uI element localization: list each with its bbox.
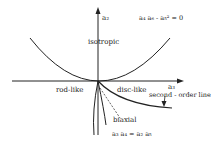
- vertical-axis-label: a₂: [102, 15, 109, 22]
- biaxial-left-curve: [94, 81, 99, 135]
- second-order-pointer-arrow-icon: [162, 101, 167, 107]
- horizontal-axis-arrow-icon: [177, 79, 184, 84]
- horizontal-axis-label: a₃: [168, 84, 175, 91]
- disc-like-region-label: disc-like: [117, 87, 146, 94]
- vertical-axis-arrow-icon: [96, 7, 101, 14]
- rod-like-region-label: rod-like: [56, 87, 83, 94]
- bottom-condition-label: a₃ a₄ = a₂ a₅: [112, 131, 152, 138]
- biaxial-region-label: biaxial: [113, 117, 137, 124]
- top-condition-label: a₄ a₆ - a₅² = 0: [139, 15, 183, 22]
- phase-diagram: a₂ a₄ a₆ - a₅² = 0 isotropic a₃ rod-like…: [0, 0, 217, 145]
- isotropic-region-label: isotropic: [88, 39, 119, 46]
- second-order-line-label: second - order line: [149, 92, 211, 99]
